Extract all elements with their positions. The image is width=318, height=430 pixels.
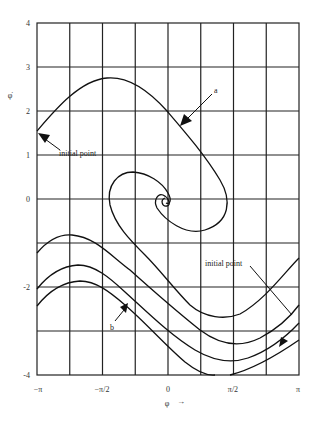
y-tick-labels: 4 3 2 1 0 -2 -4	[23, 19, 30, 380]
x-tick: 0	[166, 385, 170, 394]
y-tick: -4	[23, 371, 30, 380]
y-tick: 3	[26, 63, 30, 72]
pointer-a-line	[186, 94, 212, 120]
label-b: b	[110, 323, 114, 332]
y-tick: 0	[26, 195, 30, 204]
annotations: a initial point initial point b	[38, 86, 292, 347]
label-initial-point-bottom: initial point	[205, 259, 243, 268]
x-axis-label: φ	[165, 399, 170, 408]
pointer-initial-top-line	[45, 139, 60, 150]
x-tick: π	[296, 385, 300, 394]
x-tick: −π	[34, 385, 43, 394]
y-tick: 1	[26, 151, 30, 160]
y-tick: 2	[26, 107, 30, 116]
pointer-b-line	[115, 310, 124, 321]
label-a: a	[214, 86, 218, 95]
label-initial-point-top: initial point	[59, 149, 97, 158]
y-tick: -2	[23, 283, 30, 292]
x-axis-arrow-icon: →	[177, 397, 185, 406]
x-tick-labels: −π −π/2 0 π/2 π	[34, 385, 300, 394]
x-tick: π/2	[228, 385, 238, 394]
x-tick: −π/2	[95, 385, 110, 394]
y-tick: 4	[26, 19, 30, 28]
trajectory-spiral-entry	[109, 172, 299, 317]
y-axis-label: φ̇	[8, 91, 14, 100]
arrow-direction-icon	[279, 337, 288, 347]
phase-portrait-chart: 4 3 2 1 0 -2 -4 −π −π/2 0 π/2 π φ̇ φ → a…	[0, 0, 318, 430]
